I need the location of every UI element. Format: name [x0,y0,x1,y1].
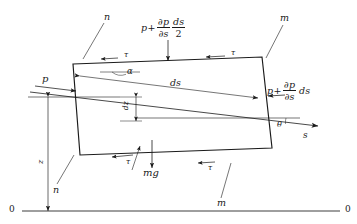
pressure-right-ds: ds [297,86,310,96]
pressure-right-plus: + [273,86,282,96]
shear-top-right-arrow [206,56,225,57]
label-streamline-bottom: m [217,198,226,208]
label-pressure-top: p + ∂p ∂s ds 2 [141,17,186,39]
figure-canvas: p p + ∂p ∂s ds 2 p + ∂p ∂s ds ds [0,0,357,224]
normal-line-lower [57,155,74,184]
alpha-angle-reference [100,72,140,75]
label-elevation: z [37,160,45,164]
label-normal-line-bottom: n [53,185,59,195]
shear-bottom-right-arrow [198,162,215,163]
label-element-height: dz [122,101,130,110]
weight-leader [132,146,140,170]
pressure-right-gradient: ∂p ∂s [283,80,296,102]
fluid-element-outline [73,57,272,155]
label-angle-theta: θ [277,121,282,129]
label-datum-left: 0 [9,205,15,214]
streamline-marker-upper [266,25,283,58]
streamline-marker-lower [221,163,231,198]
label-streamline-top: m [280,13,289,23]
theta-angle-arc [285,118,286,124]
label-pressure-right: p + ∂p ∂s ds [267,80,310,102]
normal-line-upper [83,23,104,59]
ds-dimension-line [80,76,258,98]
label-datum-right: 0 [345,205,351,214]
label-streamline-axis: s [303,131,308,140]
pressure-top-half-ds: ds 2 [172,17,185,39]
label-shear-bottom-left: τ [126,158,130,166]
label-shear-bottom-right: τ [208,164,212,172]
pressure-top-plus: + [147,23,156,33]
pressure-top-gradient: ∂p ∂s [157,17,170,39]
label-normal-line-top: n [104,12,110,22]
label-angle-alpha: α [127,67,133,76]
label-shear-top-right: τ [231,49,235,57]
label-weight: mg [143,168,159,178]
label-element-length: ds [170,78,181,88]
label-shear-top-left: τ [124,51,128,59]
shear-top-left-arrow [101,58,118,59]
label-pressure-left: p [42,74,48,84]
pressure-left-arrow [35,86,76,91]
